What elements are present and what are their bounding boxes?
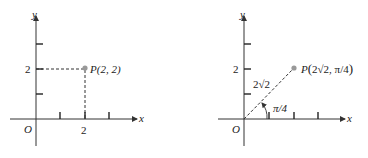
polar-cartesian-diagram: y x O 2 2 P(2, 2) y x O 2 2√2 π/4 P(2√2,…	[0, 0, 368, 158]
right-polar-plot: y x O 2 2√2 π/4 P(2√2, π/4)	[218, 8, 353, 146]
y-tick-label: 2	[233, 63, 239, 75]
y-tick-label: 2	[25, 63, 31, 75]
point-label: P(2√2, π/4)	[300, 61, 353, 76]
x-tick-label: 2	[81, 124, 87, 136]
x-axis-label: x	[138, 112, 144, 124]
angle-arc	[262, 103, 267, 119]
y-axis-label: y	[31, 8, 37, 20]
x-axis-label: x	[346, 112, 352, 124]
y-axis-label: y	[239, 8, 245, 20]
radius-label: 2√2	[253, 78, 270, 90]
point-label-coords: 2√2, π/4	[312, 63, 349, 75]
projection-lines	[36, 69, 85, 119]
point-label: P(2, 2)	[89, 63, 121, 76]
point-p	[82, 65, 87, 70]
left-cartesian-plot: y x O 2 2 P(2, 2)	[10, 8, 144, 146]
origin-label: O	[24, 123, 32, 135]
point-p	[291, 65, 296, 70]
origin-label: O	[232, 123, 240, 135]
angle-label: π/4	[273, 102, 288, 114]
